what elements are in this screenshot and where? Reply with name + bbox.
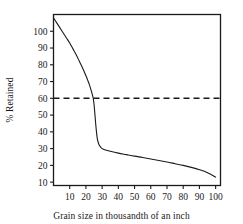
y-tick-label: 30: [38, 144, 48, 154]
x-tick-label: 20: [81, 192, 91, 202]
x-tick-label: 100: [209, 192, 224, 202]
y-tick-label: 90: [38, 43, 48, 53]
x-axis-tick-labels: 102030405060708090100: [65, 192, 223, 202]
y-axis-title: % Retained: [5, 55, 15, 145]
plot-frame: [54, 15, 221, 186]
chart-figure: 102030405060708090100 102030405060708090…: [0, 0, 243, 224]
y-tick-label: 70: [38, 77, 48, 87]
x-tick-label: 60: [146, 192, 156, 202]
x-tick-label: 90: [195, 192, 205, 202]
x-tick-label: 80: [178, 192, 188, 202]
y-tick-label: 60: [38, 94, 48, 104]
y-axis-tick-labels: 102030405060708090100: [33, 27, 48, 188]
x-tick-label: 70: [162, 192, 172, 202]
x-axis-title: Grain size in thousandth of an inch: [0, 211, 243, 221]
y-tick-label: 80: [38, 60, 48, 70]
y-tick-label: 100: [33, 27, 48, 37]
x-tick-label: 30: [97, 192, 107, 202]
x-tick-label: 50: [130, 192, 140, 202]
y-tick-label: 10: [38, 178, 48, 188]
x-tick-label: 40: [114, 192, 124, 202]
y-tick-label: 40: [38, 127, 48, 137]
x-tick-label: 10: [65, 192, 75, 202]
y-tick-label: 20: [38, 161, 48, 171]
y-tick-label: 50: [38, 110, 48, 120]
plot-border: [54, 15, 221, 186]
grain-size-retention-chart: 102030405060708090100 102030405060708090…: [0, 0, 243, 224]
